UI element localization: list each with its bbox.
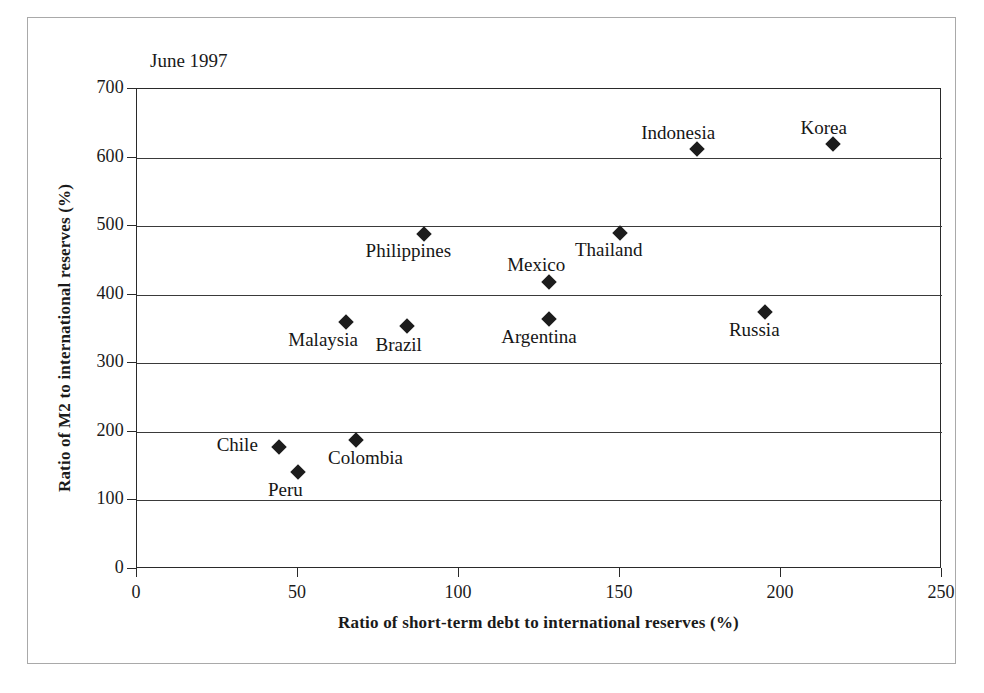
x-tick-label-50: 50 xyxy=(262,582,332,602)
data-point-label-chile: Chile xyxy=(217,434,258,455)
data-point-korea[interactable] xyxy=(825,136,841,152)
x-tick-250 xyxy=(941,568,942,577)
y-tick-label-700: 700 xyxy=(78,78,124,96)
gridline-y-200 xyxy=(137,432,942,433)
y-tick-label-200: 200 xyxy=(78,421,124,439)
data-point-label-russia: Russia xyxy=(729,319,780,340)
data-point-russia[interactable] xyxy=(757,304,773,320)
data-point-label-colombia: Colombia xyxy=(328,447,403,468)
y-tick-500 xyxy=(127,225,136,226)
gridline-y-500 xyxy=(137,226,942,227)
data-point-label-argentina: Argentina xyxy=(501,326,577,347)
y-tick-400 xyxy=(127,294,136,295)
data-point-label-malaysia: Malaysia xyxy=(288,329,358,350)
y-tick-600 xyxy=(127,157,136,158)
gridline-y-400 xyxy=(137,295,942,296)
data-point-colombia[interactable] xyxy=(348,432,364,448)
x-tick-label-0: 0 xyxy=(101,582,171,602)
data-point-label-philippines: Philippines xyxy=(366,240,452,261)
data-point-brazil[interactable] xyxy=(400,318,416,334)
y-axis-title: Ratio of M2 to international reserves (%… xyxy=(55,103,75,573)
y-tick-label-500: 500 xyxy=(78,215,124,233)
gridline-y-100 xyxy=(137,500,942,501)
y-tick-200 xyxy=(127,431,136,432)
chart-title: June 1997 xyxy=(150,50,228,72)
gridline-y-600 xyxy=(137,158,942,159)
x-tick-label-250: 250 xyxy=(906,582,976,602)
data-point-chile[interactable] xyxy=(271,439,287,455)
figure-container: June 1997 Ratio of M2 to international r… xyxy=(0,0,984,693)
data-point-label-thailand: Thailand xyxy=(575,239,643,260)
data-point-argentina[interactable] xyxy=(541,311,557,327)
y-tick-label-600: 600 xyxy=(78,147,124,165)
gridline-y-300 xyxy=(137,363,942,364)
y-tick-700 xyxy=(127,88,136,89)
y-tick-label-300: 300 xyxy=(78,352,124,370)
y-tick-label-400: 400 xyxy=(78,284,124,302)
x-tick-50 xyxy=(297,568,298,577)
data-point-label-indonesia: Indonesia xyxy=(641,122,715,143)
x-tick-label-150: 150 xyxy=(584,582,654,602)
y-tick-label-100: 100 xyxy=(78,489,124,507)
data-point-label-brazil: Brazil xyxy=(375,334,421,355)
x-tick-200 xyxy=(780,568,781,577)
plot-area: IndonesiaKoreaPhilippinesThailandMexicoM… xyxy=(136,88,941,568)
x-tick-100 xyxy=(458,568,459,577)
y-tick-100 xyxy=(127,499,136,500)
data-point-label-peru: Peru xyxy=(268,479,303,500)
x-axis-title: Ratio of short-term debt to internationa… xyxy=(136,613,941,633)
y-tick-label-0: 0 xyxy=(78,558,124,576)
data-point-label-korea: Korea xyxy=(801,117,847,138)
data-point-label-mexico: Mexico xyxy=(507,254,565,275)
x-tick-0 xyxy=(136,568,137,577)
data-point-malaysia[interactable] xyxy=(339,314,355,330)
y-tick-0 xyxy=(127,568,136,569)
data-point-mexico[interactable] xyxy=(541,275,557,291)
x-tick-150 xyxy=(619,568,620,577)
y-tick-300 xyxy=(127,362,136,363)
x-tick-label-100: 100 xyxy=(423,582,493,602)
x-tick-label-200: 200 xyxy=(745,582,815,602)
data-point-peru[interactable] xyxy=(290,464,306,480)
data-point-indonesia[interactable] xyxy=(689,142,705,158)
